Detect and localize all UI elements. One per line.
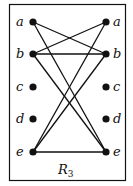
right-node-c [102,83,109,90]
right-node-label: b [113,46,121,61]
left-node-label: a [16,14,24,29]
left-node-label: d [16,111,24,126]
left-node-label: b [16,46,24,61]
left-node-label: c [16,79,24,94]
right-node-d [102,115,109,122]
right-node-label: a [113,14,121,29]
relation-diagram: abcdeabcde R3 [0,0,133,186]
relation-edges [33,22,106,152]
left-node-d [29,115,36,122]
left-node-a [29,18,36,25]
right-node-a [102,18,109,25]
right-node-label: d [113,111,121,126]
diagram-title: R3 [57,162,74,179]
left-node-c [29,83,36,90]
right-node-e [102,148,109,155]
right-node-label: e [113,144,121,159]
right-node-label: c [113,79,121,94]
left-node-b [29,50,36,57]
right-node-b [102,50,109,57]
left-node-label: e [16,144,24,159]
left-node-e [29,148,36,155]
